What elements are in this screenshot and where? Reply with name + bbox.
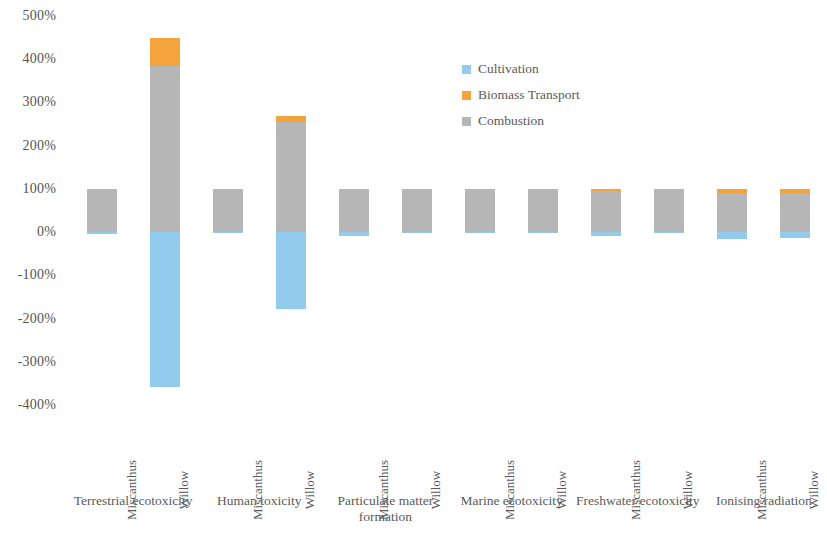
y-axis-tick-label: 100% <box>23 181 56 197</box>
y-axis-tick-label: -300% <box>18 354 56 370</box>
bar-segment <box>717 189 747 193</box>
bar-column[interactable] <box>591 16 621 405</box>
y-axis-tick-label: 0% <box>37 224 56 240</box>
bar-segment <box>87 189 117 232</box>
legend-item[interactable]: Combustion <box>462 108 580 134</box>
x-axis-crop-label-text: Miscanthus <box>502 460 518 520</box>
legend-label: Combustion <box>478 108 544 134</box>
bar-segment <box>150 38 180 66</box>
x-axis-crop-label: Miscanthus <box>87 405 117 490</box>
x-axis-crop-label: Willow <box>654 405 684 490</box>
y-axis-tick-label: 400% <box>23 51 56 67</box>
bar-segment <box>591 189 621 191</box>
x-axis-group-label: Freshwater ecotoxicity <box>575 493 701 509</box>
bar-segment <box>780 232 810 238</box>
x-axis-crop-label-text: Miscanthus <box>124 460 140 520</box>
bar-segment <box>213 232 243 233</box>
bar-segment <box>717 193 747 232</box>
x-axis-crop-label: Miscanthus <box>717 405 747 490</box>
bar-segment <box>591 191 621 232</box>
legend-item[interactable]: Cultivation <box>462 56 580 82</box>
x-axis-crop-label: Willow <box>402 405 432 490</box>
x-axis-crop-label: Willow <box>276 405 306 490</box>
bar-segment <box>465 232 495 233</box>
legend-swatch-icon <box>462 65 471 74</box>
bar-segment <box>654 232 684 233</box>
legend-label: Biomass Transport <box>478 82 580 108</box>
bar-segment <box>465 189 495 232</box>
x-axis-group-label: Terrestrial ecotoxicity <box>70 493 196 509</box>
bar-segment <box>276 122 306 232</box>
y-axis-tick-label: -200% <box>18 311 56 327</box>
bar-segment <box>276 232 306 309</box>
x-axis-crop-label: Miscanthus <box>339 405 369 490</box>
x-axis-group-label: Particulate matter formation <box>322 493 448 525</box>
x-axis-crop-label: Willow <box>150 405 180 490</box>
bar-column[interactable] <box>654 16 684 405</box>
bar-column[interactable] <box>87 16 117 405</box>
plot-area <box>70 16 827 405</box>
chart-page: 500%400%300%200%100%0%-100%-200%-300%-40… <box>0 0 827 546</box>
x-axis-crop-label: Willow <box>528 405 558 490</box>
legend-item[interactable]: Biomass Transport <box>462 82 580 108</box>
bar-column[interactable] <box>150 16 180 405</box>
x-axis-group-label: Marine ecotoxicity <box>449 493 575 509</box>
bar-segment <box>339 189 369 232</box>
y-axis-tick-label: 200% <box>23 138 56 154</box>
x-axis-crop-label-text: Miscanthus <box>754 460 770 520</box>
x-axis-group-label: Human toxicity <box>196 493 322 509</box>
bar-segment <box>213 189 243 232</box>
x-axis-crop-label: Willow <box>780 405 810 490</box>
y-axis-tick-label: 300% <box>23 94 56 110</box>
x-axis-crop-label-text: Miscanthus <box>628 460 644 520</box>
bar-column[interactable] <box>339 16 369 405</box>
bar-segment <box>780 189 810 193</box>
bar-segment <box>150 66 180 232</box>
y-axis-tick-label: -400% <box>18 397 56 413</box>
x-axis-crop-label: Miscanthus <box>591 405 621 490</box>
bar-segment <box>150 232 180 387</box>
bar-segment <box>591 232 621 236</box>
bar-segment <box>717 232 747 239</box>
bar-column[interactable] <box>402 16 432 405</box>
y-axis: 500%400%300%200%100%0%-100%-200%-300%-40… <box>0 16 64 405</box>
bar-segment <box>780 193 810 232</box>
bar-segment <box>276 116 306 122</box>
x-axis-crop-label-text: Miscanthus <box>250 460 266 520</box>
bar-column[interactable] <box>213 16 243 405</box>
x-axis: MiscanthusWillowMiscanthusWillowMiscanth… <box>70 405 827 546</box>
legend-label: Cultivation <box>478 56 539 82</box>
bar-column[interactable] <box>780 16 810 405</box>
legend-swatch-icon <box>462 91 471 100</box>
bar-column[interactable] <box>717 16 747 405</box>
y-axis-tick-label: -100% <box>18 267 56 283</box>
x-axis-crop-label: Miscanthus <box>465 405 495 490</box>
chart-legend: CultivationBiomass TransportCombustion <box>462 56 580 134</box>
bar-segment <box>402 232 432 233</box>
bar-segment <box>654 189 684 232</box>
x-axis-crop-label: Miscanthus <box>213 405 243 490</box>
bar-column[interactable] <box>276 16 306 405</box>
bar-segment <box>528 232 558 233</box>
bar-segment <box>87 232 117 234</box>
bar-segment <box>339 232 369 235</box>
bar-segment <box>402 189 432 232</box>
bar-segment <box>528 189 558 232</box>
x-axis-group-label: Ionising radiation <box>701 493 827 509</box>
legend-swatch-icon <box>462 117 471 126</box>
y-axis-tick-label: 500% <box>23 8 56 24</box>
